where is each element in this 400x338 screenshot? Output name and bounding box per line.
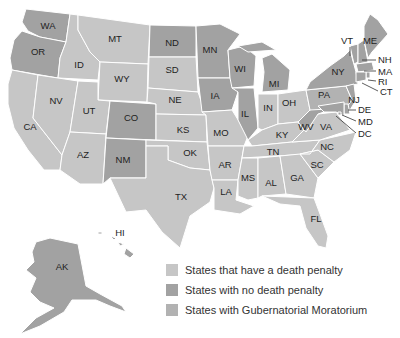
label-nh: NH	[378, 54, 392, 65]
label-tn: TN	[267, 146, 280, 157]
label-sd: SD	[165, 64, 178, 75]
label-ga: GA	[290, 172, 304, 183]
state-dc	[338, 112, 341, 115]
label-pa: PA	[318, 89, 331, 100]
leader-md	[342, 115, 356, 121]
legend-item-moratorium: States with Gubernatorial Moratorium	[166, 300, 367, 320]
label-md: MD	[358, 116, 373, 127]
label-mn: MN	[203, 44, 218, 55]
leader-ri	[368, 80, 376, 81]
label-ny: NY	[331, 66, 345, 77]
state-ak	[20, 238, 126, 334]
label-id: ID	[74, 59, 84, 70]
label-dc: DC	[358, 128, 372, 139]
label-sc: SC	[310, 159, 323, 170]
label-wa: WA	[41, 20, 57, 31]
legend-item-no-death-penalty: States with no death penalty	[166, 280, 367, 300]
legend-label: States that have a death penalty	[185, 264, 343, 276]
legend-item-death-penalty: States that have a death penalty	[166, 260, 367, 280]
label-nm: NM	[116, 154, 131, 165]
swatch-no-death-penalty	[166, 284, 178, 296]
label-in: IN	[263, 102, 273, 113]
label-va: VA	[320, 121, 333, 132]
label-co: CO	[124, 112, 138, 123]
label-nv: NV	[49, 95, 63, 106]
label-al: AL	[265, 177, 277, 188]
label-ut: UT	[83, 105, 96, 116]
label-or: OR	[31, 46, 45, 57]
legend: States that have a death penalty States …	[166, 260, 367, 320]
label-ok: OK	[183, 147, 197, 158]
state-ct	[356, 72, 366, 82]
label-mo: MO	[213, 127, 228, 138]
label-ms: MS	[241, 172, 255, 183]
label-la: LA	[220, 186, 232, 197]
label-de: DE	[358, 104, 371, 115]
label-ia: IA	[211, 90, 221, 101]
legend-label: States with Gubernatorial Moratorium	[185, 304, 367, 316]
label-wy: WY	[114, 73, 130, 84]
label-wv: WV	[298, 121, 314, 132]
label-az: AZ	[77, 149, 89, 160]
label-vt: VT	[341, 35, 353, 46]
label-fl: FL	[310, 213, 321, 224]
state-ri	[366, 72, 370, 78]
label-tx: TX	[175, 191, 188, 202]
label-nd: ND	[165, 37, 179, 48]
state-ma	[356, 62, 374, 72]
label-wi: WI	[234, 63, 246, 74]
label-mt: MT	[108, 33, 122, 44]
swatch-moratorium	[166, 304, 178, 316]
swatch-death-penalty	[166, 264, 178, 276]
label-mi: MI	[269, 78, 280, 89]
legend-label: States with no death penalty	[185, 284, 323, 296]
label-nc: NC	[320, 141, 334, 152]
label-ca: CA	[23, 121, 37, 132]
label-ks: KS	[177, 124, 190, 135]
label-ct: CT	[380, 86, 393, 97]
label-ar: AR	[218, 159, 231, 170]
leader-ct	[362, 83, 378, 91]
label-ky: KY	[276, 129, 289, 140]
label-il: IL	[241, 108, 249, 119]
label-ak: AK	[56, 261, 69, 272]
label-oh: OH	[282, 97, 296, 108]
label-me: ME	[363, 35, 377, 46]
label-ne: NE	[168, 94, 181, 105]
label-hi: HI	[115, 227, 125, 238]
